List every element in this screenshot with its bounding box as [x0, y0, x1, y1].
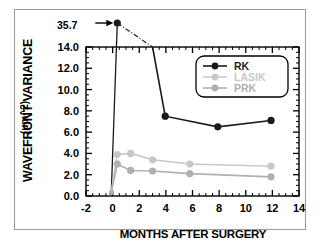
data-point: [186, 160, 193, 167]
x-tick-label: 12: [266, 202, 278, 214]
data-point: [214, 123, 221, 130]
x-tick-label: 2: [136, 202, 142, 214]
y-tick-label: 10.0: [58, 84, 79, 96]
legend-marker: [212, 85, 219, 92]
chart-plot: -2024681012140.02.04.06.08.010.012.014.0…: [0, 0, 320, 246]
data-point: [267, 163, 274, 170]
legend-marker: [212, 63, 219, 70]
data-point: [162, 113, 169, 120]
x-tick-label: 8: [216, 202, 222, 214]
x-axis-title: MONTHS AFTER SURGERY: [86, 228, 300, 240]
y-tick-label: 4.0: [64, 147, 79, 159]
data-point: [267, 173, 274, 180]
y-tick-label: 2.0: [64, 169, 79, 181]
x-tick-label: 4: [163, 202, 170, 214]
data-point: [114, 151, 121, 158]
x-tick-label: 14: [293, 202, 306, 214]
x-tick-label: 6: [189, 202, 195, 214]
data-point: [127, 150, 134, 157]
legend: RKLASIKPRK: [196, 56, 288, 97]
x-tick-label: 0: [110, 202, 116, 214]
data-point: [114, 19, 121, 26]
y-axis-units: (μm^2): [19, 88, 30, 148]
annotation-arrow: [95, 20, 113, 26]
y-tick-label: 8.0: [64, 105, 79, 117]
legend-marker: [212, 74, 219, 81]
series-rk: [109, 19, 275, 195]
data-point: [149, 156, 156, 163]
data-point: [109, 191, 113, 195]
data-point: [127, 167, 134, 174]
data-point: [186, 170, 193, 177]
y-tick-label: 6.0: [64, 126, 79, 138]
data-point: [114, 160, 121, 167]
annotation-peak-value: 35.7: [57, 19, 77, 31]
y-tick-label: 0.0: [64, 190, 79, 202]
data-point: [149, 167, 156, 174]
y-tick-label: 12.0: [58, 62, 79, 74]
x-tick-label: -2: [81, 202, 91, 214]
y-tick-label: 14.0: [58, 41, 79, 53]
x-tick-label: 10: [240, 202, 252, 214]
legend-label: PRK: [234, 82, 257, 94]
data-point: [267, 117, 274, 124]
